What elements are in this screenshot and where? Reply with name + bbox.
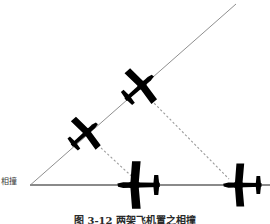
figure-caption: 图 3-12 两架飞机置之相撞 <box>0 215 270 224</box>
figure-container: 相撞 图 3-12 两架飞机置之相撞 <box>0 0 270 224</box>
aircraft-bottom-center <box>117 161 159 209</box>
aircraft-lower-diagonal <box>59 109 109 159</box>
sightline-dashed-right <box>148 97 229 179</box>
aircraft-upper-diagonal <box>112 60 166 115</box>
aircraft-bottom-right <box>223 163 261 206</box>
diagram-canvas <box>0 0 270 224</box>
collision-point-label: 相撞 <box>1 177 17 186</box>
